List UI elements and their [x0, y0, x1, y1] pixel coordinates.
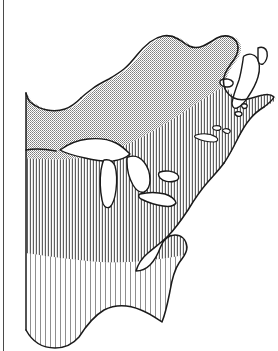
small-island-b [242, 104, 248, 109]
prince-edward-island-shape [220, 79, 233, 87]
small-island-a [235, 112, 242, 117]
marthas-vineyard-shape [213, 126, 221, 131]
lake-michigan-shape [100, 160, 116, 208]
figure-root: Eastern North America distribution map D… [0, 0, 278, 351]
distribution-map: Eastern North America distribution map D… [0, 0, 278, 351]
cape-breton-shape [258, 47, 267, 64]
